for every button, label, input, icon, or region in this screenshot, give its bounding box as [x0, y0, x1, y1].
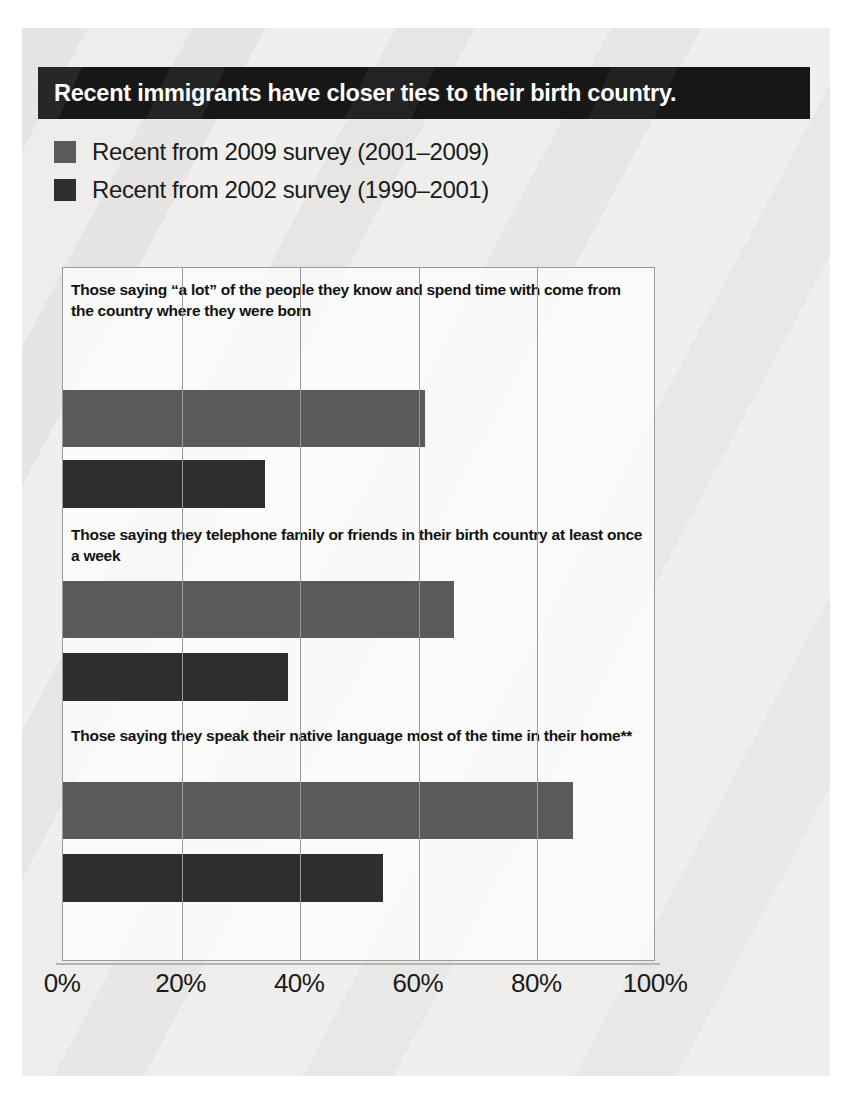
bar-2009-2	[63, 782, 573, 839]
x-axis-tick-labels: 0%20%40%60%80%100%	[0, 968, 852, 1008]
bar-2009-1	[63, 581, 454, 638]
page-title: Recent immigrants have closer ties to th…	[38, 80, 676, 107]
bar-2002-2	[63, 854, 383, 902]
gridline-40%	[300, 268, 301, 960]
category-label-2: Those saying they speak their native lan…	[71, 726, 644, 747]
legend-item-2009: Recent from 2009 survey (2001–2009)	[54, 133, 654, 171]
chart-legend: Recent from 2009 survey (2001–2009) Rece…	[54, 133, 654, 209]
x-tick-label-80%: 80%	[511, 968, 562, 999]
chart-plot-area: Those saying “a lot” of the people they …	[62, 267, 655, 961]
x-tick-label-60%: 60%	[393, 968, 444, 999]
bar-2002-0	[63, 460, 265, 508]
legend-swatch-2002-icon	[54, 179, 76, 201]
legend-label-2002: Recent from 2002 survey (1990–2001)	[92, 176, 489, 204]
category-label-0: Those saying “a lot” of the people they …	[71, 280, 644, 321]
x-tick-label-0%: 0%	[44, 968, 81, 999]
legend-swatch-2009-icon	[54, 141, 76, 163]
x-tick-label-40%: 40%	[274, 968, 325, 999]
gridline-60%	[419, 268, 420, 960]
chart-title-banner: Recent immigrants have closer ties to th…	[38, 67, 810, 119]
chart-page: Recent immigrants have closer ties to th…	[0, 0, 852, 1100]
category-group-2: Those saying they speak their native lan…	[63, 722, 654, 962]
x-tick-label-100%: 100%	[623, 968, 688, 999]
category-group-0: Those saying “a lot” of the people they …	[63, 268, 654, 498]
category-group-1: Those saying they telephone family or fr…	[63, 521, 654, 751]
bar-2002-1	[63, 653, 288, 701]
category-label-1: Those saying they telephone family or fr…	[71, 525, 644, 566]
bar-2009-0	[63, 390, 425, 447]
x-axis-line	[56, 963, 660, 965]
gridline-20%	[182, 268, 183, 960]
gridline-80%	[537, 268, 538, 960]
legend-label-2009: Recent from 2009 survey (2001–2009)	[92, 138, 489, 166]
legend-item-2002: Recent from 2002 survey (1990–2001)	[54, 171, 654, 209]
x-tick-label-20%: 20%	[155, 968, 206, 999]
